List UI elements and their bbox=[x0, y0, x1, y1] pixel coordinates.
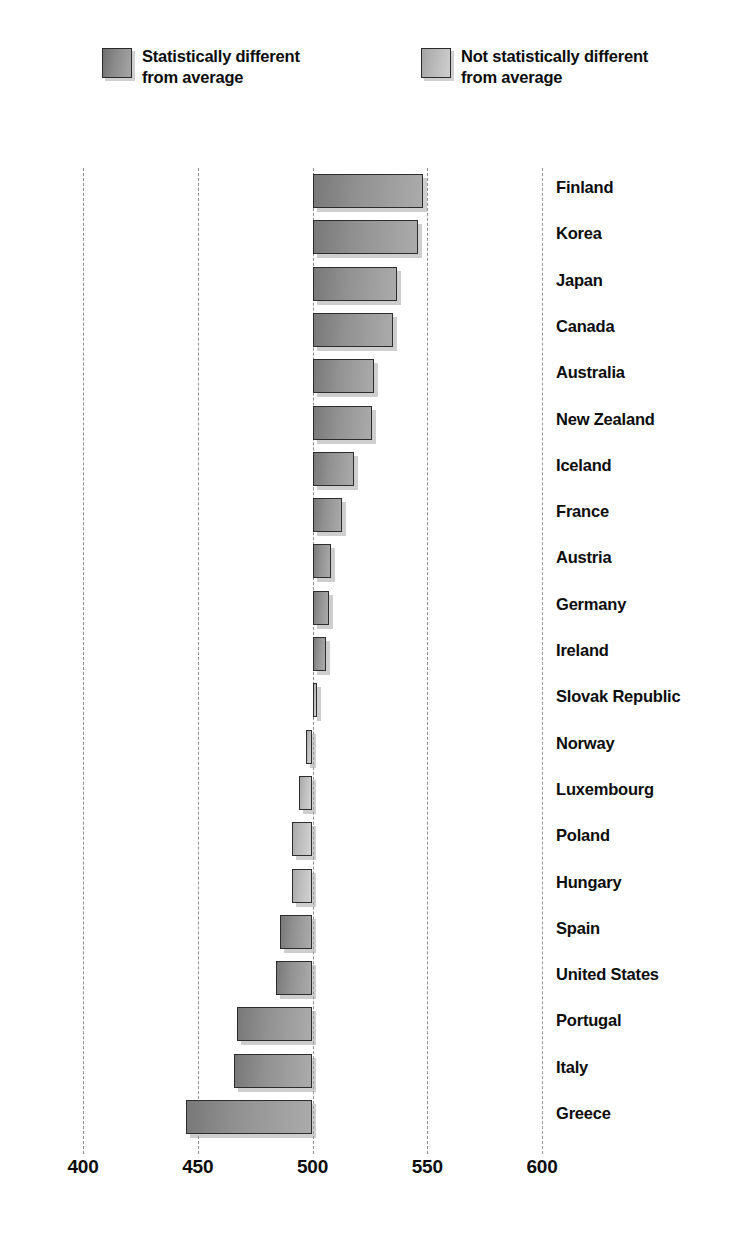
chart-row: Finland bbox=[0, 168, 746, 214]
country-label: Austria bbox=[556, 548, 611, 567]
bar[interactable] bbox=[299, 776, 313, 810]
chart-row: Canada bbox=[0, 307, 746, 353]
country-label: Iceland bbox=[556, 456, 611, 475]
country-label: Japan bbox=[556, 271, 603, 290]
bar[interactable] bbox=[292, 869, 313, 903]
country-label: Greece bbox=[556, 1104, 611, 1123]
chart-row: Italy bbox=[0, 1048, 746, 1094]
bar[interactable] bbox=[186, 1100, 312, 1134]
country-label: Spain bbox=[556, 919, 600, 938]
bar[interactable] bbox=[306, 730, 313, 764]
country-label: Luxembourg bbox=[556, 780, 654, 799]
chart-row: Slovak Republic bbox=[0, 677, 746, 723]
country-label: Australia bbox=[556, 363, 625, 382]
bar[interactable] bbox=[313, 683, 318, 717]
chart-row: Hungary bbox=[0, 863, 746, 909]
bar[interactable] bbox=[313, 313, 393, 347]
bar[interactable] bbox=[292, 822, 313, 856]
bar[interactable] bbox=[313, 544, 331, 578]
x-tick-label-600: 600 bbox=[527, 1156, 558, 1178]
bar[interactable] bbox=[313, 359, 375, 393]
country-label: Norway bbox=[556, 734, 614, 753]
chart-row: Luxembourg bbox=[0, 770, 746, 816]
country-label: Finland bbox=[556, 178, 613, 197]
bar[interactable] bbox=[313, 174, 423, 208]
chart-row: Norway bbox=[0, 724, 746, 770]
legend-item-light: Not statistically different from average bbox=[421, 46, 648, 87]
bar[interactable] bbox=[313, 498, 343, 532]
country-label: Poland bbox=[556, 826, 610, 845]
legend-swatch-dark bbox=[102, 48, 132, 78]
country-label: Italy bbox=[556, 1058, 588, 1077]
legend-swatch-light bbox=[421, 48, 451, 78]
bar[interactable] bbox=[280, 915, 312, 949]
bar[interactable] bbox=[313, 220, 419, 254]
chart-row: Japan bbox=[0, 261, 746, 307]
bar[interactable] bbox=[276, 961, 313, 995]
country-label: Germany bbox=[556, 595, 626, 614]
country-label: Korea bbox=[556, 224, 602, 243]
chart-row: Iceland bbox=[0, 446, 746, 492]
chart-row: Germany bbox=[0, 585, 746, 631]
bar[interactable] bbox=[313, 637, 327, 671]
bar[interactable] bbox=[313, 406, 373, 440]
country-label: Slovak Republic bbox=[556, 687, 680, 706]
bar[interactable] bbox=[234, 1054, 312, 1088]
chart-row: Spain bbox=[0, 909, 746, 955]
x-tick-label-400: 400 bbox=[68, 1156, 99, 1178]
x-axis: 400450500550600 bbox=[0, 1156, 746, 1206]
country-label: Hungary bbox=[556, 873, 622, 892]
x-tick-label-450: 450 bbox=[182, 1156, 213, 1178]
country-label: United States bbox=[556, 965, 659, 984]
bar[interactable] bbox=[237, 1007, 313, 1041]
legend-label: Not statistically different from average bbox=[461, 46, 648, 87]
country-label: France bbox=[556, 502, 609, 521]
x-tick-label-550: 550 bbox=[412, 1156, 443, 1178]
chart-row: Greece bbox=[0, 1094, 746, 1140]
legend-label: Statistically different from average bbox=[142, 46, 300, 87]
country-label: New Zealand bbox=[556, 410, 655, 429]
chart-row: New Zealand bbox=[0, 400, 746, 446]
chart-row: France bbox=[0, 492, 746, 538]
chart-row: Poland bbox=[0, 816, 746, 862]
chart-row: United States bbox=[0, 955, 746, 1001]
chart-row: Portugal bbox=[0, 1001, 746, 1047]
chart-legend: Statistically different from averageNot … bbox=[0, 46, 746, 106]
country-label: Ireland bbox=[556, 641, 609, 660]
legend-item-dark: Statistically different from average bbox=[102, 46, 300, 87]
bar[interactable] bbox=[313, 452, 354, 486]
chart-row: Australia bbox=[0, 353, 746, 399]
plot-area: FinlandKoreaJapanCanadaAustraliaNew Zeal… bbox=[0, 168, 746, 1154]
bar[interactable] bbox=[313, 267, 398, 301]
x-tick-label-500: 500 bbox=[297, 1156, 328, 1178]
bar[interactable] bbox=[313, 591, 329, 625]
chart-row: Korea bbox=[0, 214, 746, 260]
country-label: Canada bbox=[556, 317, 614, 336]
chart-row: Austria bbox=[0, 538, 746, 584]
country-label: Portugal bbox=[556, 1011, 621, 1030]
chart-row: Ireland bbox=[0, 631, 746, 677]
